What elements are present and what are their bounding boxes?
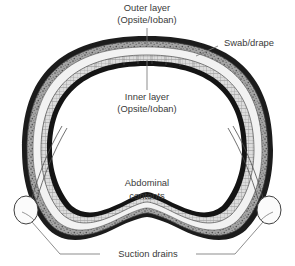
suction-drains-label: Suction drains — [118, 248, 178, 259]
abdominal-dressing-diagram: Outer layer (Opsite/Ioban) Swab/drape In… — [0, 0, 295, 266]
diagram-canvas: Outer layer (Opsite/Ioban) Swab/drape In… — [0, 0, 295, 266]
swab-drape-label: Swab/drape — [224, 37, 274, 48]
inner-layer-label-line2: (Opsite/Ioban) — [117, 103, 176, 114]
abdominal-contents-label-line2: contents — [129, 190, 165, 201]
abdominal-contents-label-line1: Abdominal — [125, 177, 169, 188]
inner-layer-label-line1: Inner layer — [125, 91, 169, 102]
left-drain-bulb — [14, 196, 38, 224]
outer-layer-label-line2: (Opsite/Ioban) — [117, 14, 176, 25]
right-drain-bulb — [257, 196, 281, 224]
outer-layer-label-line1: Outer layer — [124, 2, 170, 13]
